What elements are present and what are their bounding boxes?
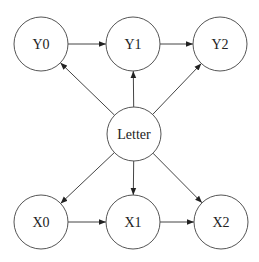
arrow-icon xyxy=(61,153,115,204)
edge-letter-to-x0 xyxy=(61,153,115,204)
node-x2: X2 xyxy=(194,195,248,249)
node-label: X2 xyxy=(212,215,229,230)
arrow-icon xyxy=(153,64,202,115)
edge-letter-to-x2 xyxy=(153,153,202,203)
node-x1: X1 xyxy=(106,195,160,249)
node-y1: Y1 xyxy=(106,17,160,71)
edge-letter-to-y0 xyxy=(60,63,114,115)
edge-letter-to-y2 xyxy=(153,64,202,115)
node-label: Y1 xyxy=(124,37,141,52)
node-letter: Letter xyxy=(107,107,161,161)
nodes: Y0Y1Y2LetterX0X1X2 xyxy=(14,17,248,249)
node-label: X0 xyxy=(32,215,49,230)
node-x0: X0 xyxy=(14,195,68,249)
node-y2: Y2 xyxy=(193,17,247,71)
node-y0: Y0 xyxy=(14,17,68,71)
node-label: Letter xyxy=(117,127,151,142)
node-label: X1 xyxy=(124,215,141,230)
arrow-icon xyxy=(153,153,202,203)
node-label: Y0 xyxy=(32,37,49,52)
arrow-icon xyxy=(60,63,114,115)
graph-canvas: Y0Y1Y2LetterX0X1X2 xyxy=(0,0,259,262)
node-label: Y2 xyxy=(211,37,228,52)
